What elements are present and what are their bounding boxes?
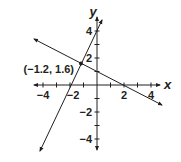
y-tick-label-4: 4 — [86, 25, 93, 37]
x-tick-label-neg2: −2 — [67, 89, 80, 101]
x-axis-label: x — [163, 77, 172, 92]
y-tick-label-neg2: −2 — [79, 106, 92, 118]
intersection-label: (−1.2, 1.6) — [24, 63, 75, 75]
y-tick-label-2: 2 — [86, 52, 92, 64]
y-axis-label: y — [88, 4, 97, 19]
x-tick-label-2: 2 — [121, 89, 127, 101]
x-tick-label-neg4: −4 — [37, 89, 50, 101]
coordinate-graph: −4 −2 2 4 4 2 −2 −4 x y (−1.2, 1.6) — [0, 0, 181, 162]
y-tick-label-neg4: −4 — [79, 133, 92, 145]
x-tick-label-4: 4 — [148, 89, 155, 101]
intersection-point — [79, 62, 83, 66]
